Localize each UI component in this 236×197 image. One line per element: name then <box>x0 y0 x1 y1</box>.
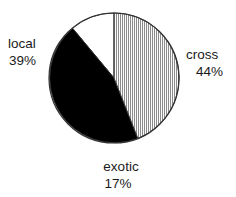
pie-label-local-value: 39% <box>8 52 36 69</box>
pie-label-cross: cross 44% <box>186 46 223 80</box>
pie-chart-figure: local 39% cross 44% exotic 17% <box>0 0 236 197</box>
pie-label-exotic-name: exotic <box>0 158 236 175</box>
pie-label-exotic-value: 17% <box>0 175 236 192</box>
pie-label-cross-name: cross <box>186 46 223 63</box>
pie-label-local: local 39% <box>8 35 36 69</box>
pie-label-exotic: exotic 17% <box>0 158 236 192</box>
pie-label-local-name: local <box>8 35 36 52</box>
pie-label-cross-value: 44% <box>186 63 223 80</box>
